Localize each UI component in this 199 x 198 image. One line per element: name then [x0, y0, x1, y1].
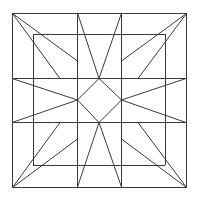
star-point-left: [12, 79, 78, 123]
star-quilt-diagram: [0, 0, 199, 198]
corner-point-bottom-left: [13, 123, 78, 188]
corner-point-bottom-right: [122, 123, 187, 188]
outer-square: [13, 14, 187, 188]
star-point-bottom: [78, 123, 122, 188]
corner-point-top-left: [13, 14, 78, 79]
star-point-right: [122, 79, 187, 123]
corner-point-top-right: [122, 14, 187, 79]
star-point-top: [78, 13, 122, 79]
center-diamond: [78, 79, 122, 123]
